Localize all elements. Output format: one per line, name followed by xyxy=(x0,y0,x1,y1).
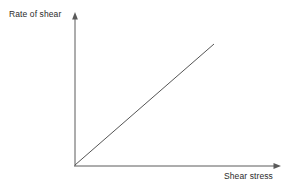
data-series-line xyxy=(75,44,214,165)
rheogram-figure: Rate of shear Shear stress xyxy=(0,0,295,187)
plot-area xyxy=(0,0,295,187)
y-axis-label: Rate of shear xyxy=(9,10,61,19)
y-axis-arrowhead-icon xyxy=(72,12,78,20)
x-axis-arrowhead-icon xyxy=(274,163,282,169)
x-axis-label: Shear stress xyxy=(224,172,273,181)
